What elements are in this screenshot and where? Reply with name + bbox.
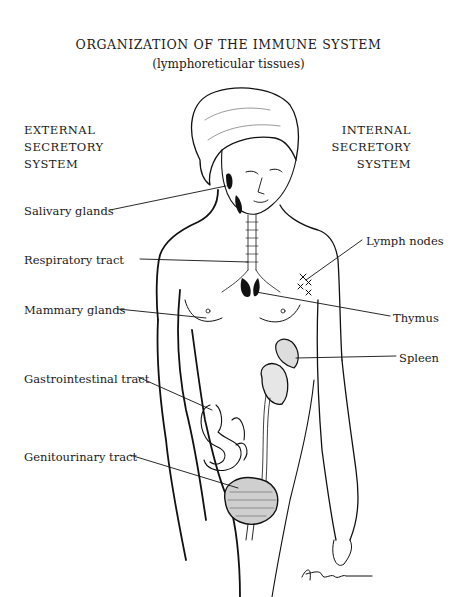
- bladder: [225, 478, 278, 525]
- label-lymph-nodes: Lymph nodes: [366, 234, 444, 248]
- label-respiratory-tract: Respiratory tract: [24, 253, 124, 267]
- spleen: [276, 339, 299, 368]
- label-salivary-glands: Salivary glands: [24, 204, 114, 218]
- hair: [192, 88, 299, 185]
- label-gastrointestinal-tract: Gastrointestinal tract: [24, 372, 149, 386]
- torso-right: [272, 380, 314, 597]
- leader-lines: [110, 186, 396, 488]
- signature: [302, 570, 372, 580]
- label-spleen: Spleen: [399, 351, 439, 365]
- body-illustration: [0, 0, 457, 597]
- intestines: [201, 405, 247, 471]
- label-genitourinary-tract: Genitourinary tract: [24, 450, 137, 464]
- bronchi: [222, 270, 280, 292]
- right-arm: [317, 300, 358, 540]
- face: [222, 150, 296, 214]
- label-mammary-glands: Mammary glands: [24, 303, 126, 317]
- nose-mouth: [254, 178, 268, 202]
- salivary-gland-marks: [226, 173, 242, 214]
- neck-right: [280, 205, 342, 360]
- ureter: [262, 395, 270, 482]
- urethra: [246, 524, 254, 540]
- thymus: [241, 278, 260, 297]
- eyes: [246, 169, 282, 174]
- neck-left: [157, 190, 218, 320]
- label-thymus: Thymus: [393, 311, 439, 325]
- breasts: [185, 300, 300, 322]
- torso-left: [192, 330, 240, 597]
- left-arm: [157, 290, 206, 560]
- hand: [333, 540, 352, 565]
- lymph-node-marks: [298, 274, 311, 295]
